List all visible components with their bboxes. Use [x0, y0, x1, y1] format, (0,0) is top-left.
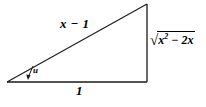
opposite-side-label: √x2 − 2x	[150, 31, 195, 48]
hypotenuse-label: x − 1	[60, 17, 89, 30]
angle-pointer-arrow	[26, 66, 33, 80]
triangle-graphic	[0, 0, 206, 107]
radicand-rest: − 2x	[168, 33, 193, 47]
angle-label: u	[33, 66, 38, 75]
right-triangle-figure: x − 1 1 u √x2 − 2x	[0, 0, 206, 107]
radicand: x2 − 2x	[157, 31, 194, 46]
base-label: 1	[76, 84, 83, 97]
